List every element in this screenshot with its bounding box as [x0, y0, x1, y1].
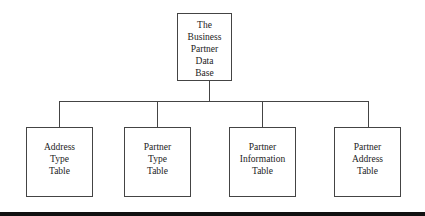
root-node-label: The Business Partner Data Base	[188, 15, 222, 79]
child-node-partner-type-table: Partner Type Table	[124, 127, 191, 197]
child-connector-2	[157, 101, 158, 127]
root-node-business-partner-database: The Business Partner Data Base	[177, 13, 232, 81]
child-connector-3	[262, 101, 263, 127]
child-node-label: Partner Address Table	[352, 141, 383, 177]
child-node-label: Address Type Table	[44, 141, 75, 177]
root-connector	[209, 81, 210, 101]
child-connector-1	[59, 101, 60, 127]
child-node-label: Partner Type Table	[144, 141, 171, 177]
child-node-partner-address-table: Partner Address Table	[334, 127, 401, 197]
child-connector-4	[368, 101, 369, 127]
child-node-label: Partner Information Table	[240, 141, 285, 177]
horizontal-connector	[59, 101, 369, 102]
bottom-border-bar	[0, 212, 425, 216]
child-node-partner-information-table: Partner Information Table	[229, 127, 296, 197]
child-node-address-type-table: Address Type Table	[26, 127, 93, 197]
